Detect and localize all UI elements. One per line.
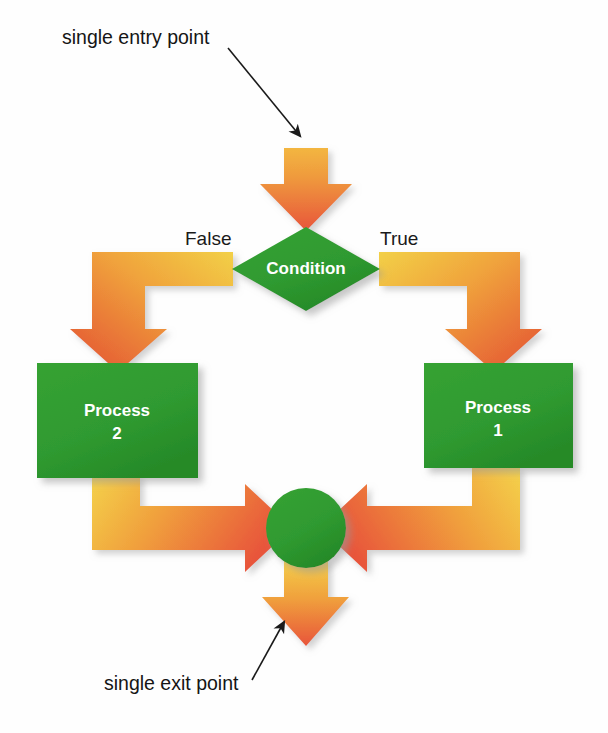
edge-merge-to-exit: [262, 560, 349, 646]
callout-entry-point: single entry point: [62, 26, 300, 136]
condition-label: Condition: [266, 259, 345, 278]
node-process-1[interactable]: Process 1: [424, 363, 573, 468]
false-elbow-arrow-shape: [70, 252, 233, 372]
node-condition[interactable]: Condition: [232, 227, 380, 311]
merge-right-elbow-shape: [320, 466, 520, 572]
callout-entry-leader-line: [228, 48, 300, 136]
merge-left-elbow-shape: [92, 474, 292, 572]
exit-arrow-shape: [262, 560, 349, 646]
callout-exit-point: single exit point: [104, 622, 284, 694]
process-2-label-line1: Process: [84, 401, 150, 420]
edge-process1-to-merge: [320, 466, 520, 572]
true-elbow-arrow-shape: [379, 252, 542, 372]
node-merge-connector[interactable]: [266, 488, 346, 568]
process-2-rect: [37, 363, 198, 478]
process-2-label-line2: 2: [112, 424, 121, 443]
callout-exit-leader-line: [252, 622, 284, 680]
flowchart-svg: Condition Process 2 Process 1 False True…: [0, 0, 608, 733]
edge-entry-to-condition: [260, 148, 352, 231]
node-process-2[interactable]: Process 2: [37, 363, 198, 478]
flowchart-canvas: Condition Process 2 Process 1 False True…: [0, 0, 608, 733]
branch-label-true: True: [380, 228, 418, 249]
callout-entry-label: single entry point: [62, 26, 210, 48]
callout-exit-label: single exit point: [104, 672, 239, 694]
edge-condition-false: [70, 252, 233, 372]
branch-label-false: False: [185, 228, 231, 249]
edge-process2-to-merge: [92, 474, 292, 572]
process-1-label-line1: Process: [465, 398, 531, 417]
edge-condition-true: [379, 252, 542, 372]
merge-circle-shape: [266, 488, 346, 568]
entry-arrow-shape: [260, 148, 352, 231]
process-1-label-line2: 1: [493, 421, 502, 440]
